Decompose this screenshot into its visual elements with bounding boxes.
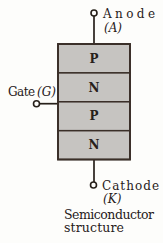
gate-terminal-circle (34, 101, 40, 107)
layer-label-p1: P (89, 52, 98, 66)
layer-label-n2: N (89, 138, 100, 152)
cathode-abbrev-label: (K) (103, 192, 122, 206)
semiconductor-structure-diagram: P N P N Anode (A) Gate (G) Cathode (K) S… (0, 0, 163, 243)
anode-terminal-circle (91, 10, 97, 16)
caption-line-2: structure (64, 220, 124, 235)
semiconductor-structure-figure: P N P N Anode (A) Gate (G) Cathode (K) S… (0, 0, 163, 243)
anode-label: Anode (102, 7, 155, 21)
layer-label-n1: N (89, 81, 100, 95)
cathode-label: Cathode (102, 179, 159, 193)
layer-label-p2: P (89, 109, 98, 123)
pnpn-layer-stack: P N P N (58, 44, 130, 160)
gate-label: Gate (8, 85, 35, 99)
anode-abbrev-label: (A) (104, 21, 122, 35)
gate-abbrev-label: (G) (37, 85, 56, 99)
cathode-terminal-circle (91, 182, 97, 188)
figure-caption: Semiconductor structure (64, 207, 154, 235)
